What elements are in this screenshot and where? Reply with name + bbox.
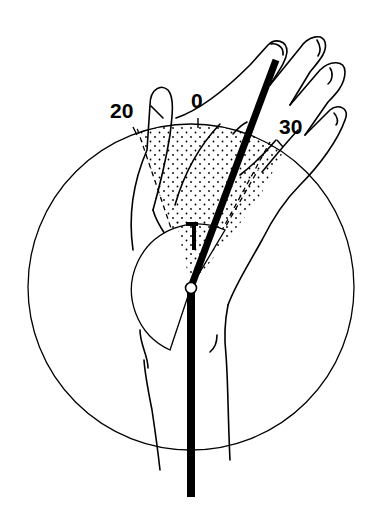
label-0: 0: [191, 89, 203, 112]
diagram-canvas: 20 0 30: [0, 0, 377, 527]
pivot-point: [186, 283, 197, 294]
label-20: 20: [110, 99, 133, 122]
label-30: 30: [279, 115, 302, 138]
